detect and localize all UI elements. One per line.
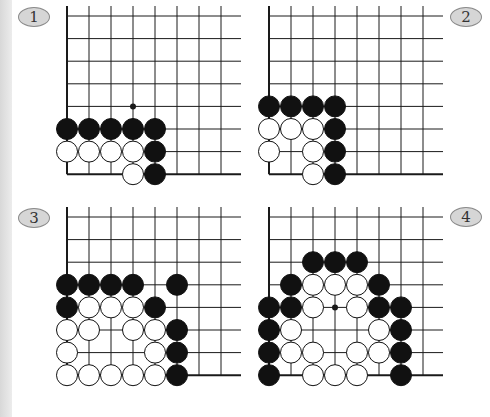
white-stone-icon (123, 297, 144, 318)
white-stone-icon (259, 119, 280, 140)
black-stone-icon (391, 320, 412, 341)
white-stone-icon (101, 297, 122, 318)
white-stone-icon (123, 365, 144, 386)
white-stone-icon (79, 320, 100, 341)
black-stone-icon (325, 119, 346, 140)
black-stone-icon (79, 119, 100, 140)
white-stone-icon (347, 297, 368, 318)
black-stone-icon (325, 252, 346, 273)
white-stone-icon (57, 141, 78, 162)
white-stone-icon (303, 342, 324, 363)
white-stone-icon (303, 164, 324, 185)
black-stone-icon (79, 274, 100, 295)
go-board-3 (57, 207, 242, 386)
black-stone-icon (281, 96, 302, 117)
white-stone-icon (145, 365, 166, 386)
black-stone-icon (57, 297, 78, 318)
black-stone-icon (325, 96, 346, 117)
white-stone-icon (79, 141, 100, 162)
black-stone-icon (167, 320, 188, 341)
white-stone-icon (145, 320, 166, 341)
black-stone-icon (259, 96, 280, 117)
black-stone-icon (145, 297, 166, 318)
white-stone-icon (79, 297, 100, 318)
black-stone-icon (369, 297, 390, 318)
white-stone-icon (101, 141, 122, 162)
diagram-number-badge: 2 (450, 7, 482, 27)
star-point-icon (130, 103, 136, 109)
white-stone-icon (281, 119, 302, 140)
white-stone-icon (101, 365, 122, 386)
white-stone-icon (369, 320, 390, 341)
white-stone-icon (347, 365, 368, 386)
black-stone-icon (369, 274, 390, 295)
white-stone-icon (325, 365, 346, 386)
black-stone-icon (101, 119, 122, 140)
black-stone-icon (57, 119, 78, 140)
white-stone-icon (347, 274, 368, 295)
black-stone-icon (303, 96, 324, 117)
white-stone-icon (57, 365, 78, 386)
white-stone-icon (303, 365, 324, 386)
black-stone-icon (259, 365, 280, 386)
go-board-2 (259, 6, 444, 185)
black-stone-icon (303, 252, 324, 273)
white-stone-icon (325, 274, 346, 295)
black-stone-icon (101, 274, 122, 295)
black-stone-icon (391, 342, 412, 363)
white-stone-icon (281, 320, 302, 341)
black-stone-icon (123, 274, 144, 295)
black-stone-icon (145, 164, 166, 185)
black-stone-icon (391, 365, 412, 386)
black-stone-icon (167, 342, 188, 363)
black-stone-icon (145, 119, 166, 140)
white-stone-icon (347, 342, 368, 363)
black-stone-icon (145, 141, 166, 162)
black-stone-icon (123, 119, 144, 140)
white-stone-icon (57, 320, 78, 341)
white-stone-icon (303, 274, 324, 295)
black-stone-icon (281, 274, 302, 295)
white-stone-icon (303, 297, 324, 318)
go-board-1 (57, 6, 242, 185)
black-stone-icon (259, 297, 280, 318)
black-stone-icon (325, 164, 346, 185)
diagram-number-badge: 1 (18, 7, 50, 27)
black-stone-icon (167, 365, 188, 386)
white-stone-icon (303, 119, 324, 140)
black-stone-icon (391, 297, 412, 318)
go-board-4 (259, 207, 444, 386)
black-stone-icon (167, 274, 188, 295)
white-stone-icon (57, 342, 78, 363)
white-stone-icon (145, 342, 166, 363)
star-point-icon (332, 304, 338, 310)
black-stone-icon (259, 320, 280, 341)
black-stone-icon (281, 297, 302, 318)
black-stone-icon (325, 141, 346, 162)
black-stone-icon (259, 342, 280, 363)
black-stone-icon (57, 274, 78, 295)
white-stone-icon (259, 141, 280, 162)
white-stone-icon (281, 342, 302, 363)
white-stone-icon (123, 320, 144, 341)
go-diagrams (0, 0, 490, 417)
white-stone-icon (303, 141, 324, 162)
white-stone-icon (123, 141, 144, 162)
diagram-number-badge: 3 (18, 208, 50, 228)
white-stone-icon (123, 164, 144, 185)
diagram-number-badge: 4 (450, 207, 482, 227)
black-stone-icon (347, 252, 368, 273)
white-stone-icon (79, 365, 100, 386)
white-stone-icon (369, 342, 390, 363)
